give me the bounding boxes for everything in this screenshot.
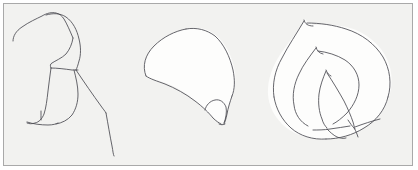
figure-1-petiole-line: [76, 70, 106, 113]
figure-3-nested-leaf-outline-study: [268, 19, 392, 139]
figure-1-lower-lobe-right-contour: [56, 70, 78, 124]
figure-1-partial-leaf-outline-with-petiole: [13, 13, 114, 156]
figure-1-petiole-lower-segment: [106, 113, 114, 156]
figure-1-lower-lobe-left-contour: [27, 68, 51, 124]
figure-1-waist-notch: [50, 38, 73, 68]
figure-2-base-tip: [219, 124, 225, 125]
figure-1-basal-margin-stroke: [27, 122, 58, 125]
figure-2-broad-leaf-outline-with-basal-lobe: [144, 28, 235, 125]
figure-1-upper-margin-stroke: [13, 13, 73, 41]
figure-1-top-lobe-contour: [46, 14, 81, 70]
figure-panel: Hand-drawn leaf outline sketches Open un…: [0, 0, 418, 170]
sketch-canvas: [0, 0, 418, 170]
